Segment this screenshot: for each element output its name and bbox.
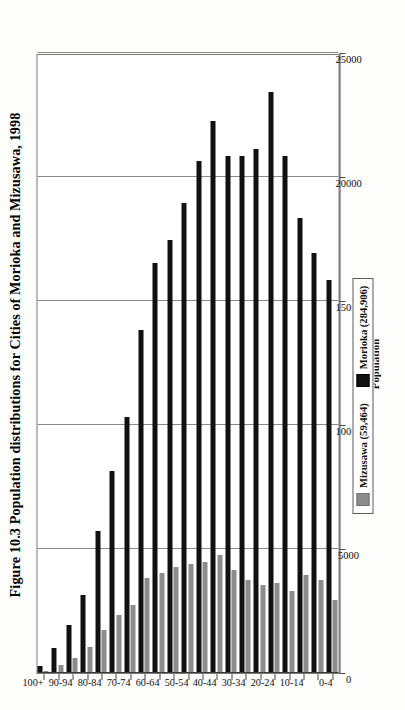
bar-morioka	[311, 253, 316, 672]
bar-mizusawa	[87, 647, 92, 672]
legend-item-mizusawa: Mizusawa (59,464)	[356, 403, 369, 506]
figure-title: Figure 10.3 Population distributions for…	[6, 0, 23, 710]
value-tick-label-0: 0	[345, 674, 350, 685]
value-tick-label-25000: 25000	[335, 54, 361, 65]
gridline-15000	[37, 300, 338, 301]
bar-morioka	[210, 121, 215, 672]
category-label-60-64: 60-64	[135, 677, 159, 688]
bar-morioka	[239, 156, 244, 672]
bar-mizusawa	[245, 580, 250, 672]
bar-mizusawa	[188, 564, 193, 672]
bar-morioka	[80, 595, 85, 672]
bar-mizusawa	[173, 567, 178, 672]
bar-mizusawa	[332, 600, 337, 672]
category-label-40-44: 40-44	[193, 677, 217, 688]
page-background: Figure 10.3 Population distributions for…	[0, 0, 405, 710]
bar-mizusawa	[130, 605, 135, 672]
value-tick-label-20000: 20000	[335, 178, 361, 189]
legend-label-mizusawa: Mizusawa (59,464)	[357, 403, 368, 488]
bar-morioka	[196, 161, 201, 672]
plot-area	[36, 54, 339, 674]
bar-morioka	[181, 203, 186, 672]
bar-mizusawa	[72, 658, 77, 672]
legend-swatch-morioka-icon	[356, 374, 369, 387]
bar-morioka	[225, 156, 230, 672]
bar-mizusawa	[260, 585, 265, 672]
bar-mizusawa	[202, 562, 207, 672]
gridline-25000	[37, 52, 338, 53]
legend-swatch-mizusawa-icon	[356, 493, 369, 506]
category-label-50-54: 50-54	[164, 677, 188, 688]
bar-mizusawa	[217, 555, 222, 672]
bar-morioka	[95, 531, 100, 672]
value-axis-line	[339, 54, 340, 674]
bar-morioka	[37, 666, 42, 672]
category-label-20-24: 20-24	[250, 677, 274, 688]
gridline-20000	[37, 176, 338, 177]
bar-mizusawa	[43, 671, 48, 672]
bar-morioka	[152, 263, 157, 672]
category-label-30-34: 30-34	[221, 677, 245, 688]
bar-morioka	[268, 92, 273, 672]
bar-morioka	[282, 156, 287, 672]
chart-legend: Mizusawa (59,464) Morioka (284,906)	[352, 278, 373, 514]
bar-mizusawa	[231, 570, 236, 672]
bar-morioka	[253, 149, 258, 672]
bar-morioka	[297, 218, 302, 672]
legend-label-morioka: Morioka (284,906)	[357, 286, 368, 370]
bar-morioka	[51, 648, 56, 672]
bar-mizusawa	[289, 591, 294, 672]
bar-mizusawa	[116, 615, 121, 672]
bar-morioka	[326, 280, 331, 672]
category-label-90-94: 90-94	[48, 677, 72, 688]
bar-mizusawa	[274, 583, 279, 672]
bar-morioka	[138, 330, 143, 672]
bar-mizusawa	[159, 573, 164, 672]
category-axis-line	[37, 672, 338, 673]
category-label-10-14: 10-14	[279, 677, 303, 688]
category-label-100+: 100+	[22, 677, 43, 688]
bar-mizusawa	[144, 578, 149, 672]
category-label-80-84: 80-84	[77, 677, 101, 688]
gridline-10000	[37, 424, 338, 425]
bar-morioka	[167, 240, 172, 672]
category-label-0-4: 0-4	[318, 677, 332, 688]
bar-morioka	[124, 417, 129, 672]
bar-morioka	[109, 471, 114, 672]
legend-item-morioka: Morioka (284,906)	[356, 286, 369, 388]
bar-mizusawa	[318, 580, 323, 672]
value-tick-label-5000: 5000	[338, 550, 359, 561]
rotated-figure: Figure 10.3 Population distributions for…	[0, 0, 405, 710]
bar-morioka	[66, 625, 71, 672]
bar-mizusawa	[101, 630, 106, 672]
value-tick-0	[339, 673, 345, 674]
bar-mizusawa	[303, 575, 308, 672]
bar-mizusawa	[58, 665, 63, 672]
category-label-70-74: 70-74	[106, 677, 130, 688]
gridline-5000	[37, 548, 338, 549]
